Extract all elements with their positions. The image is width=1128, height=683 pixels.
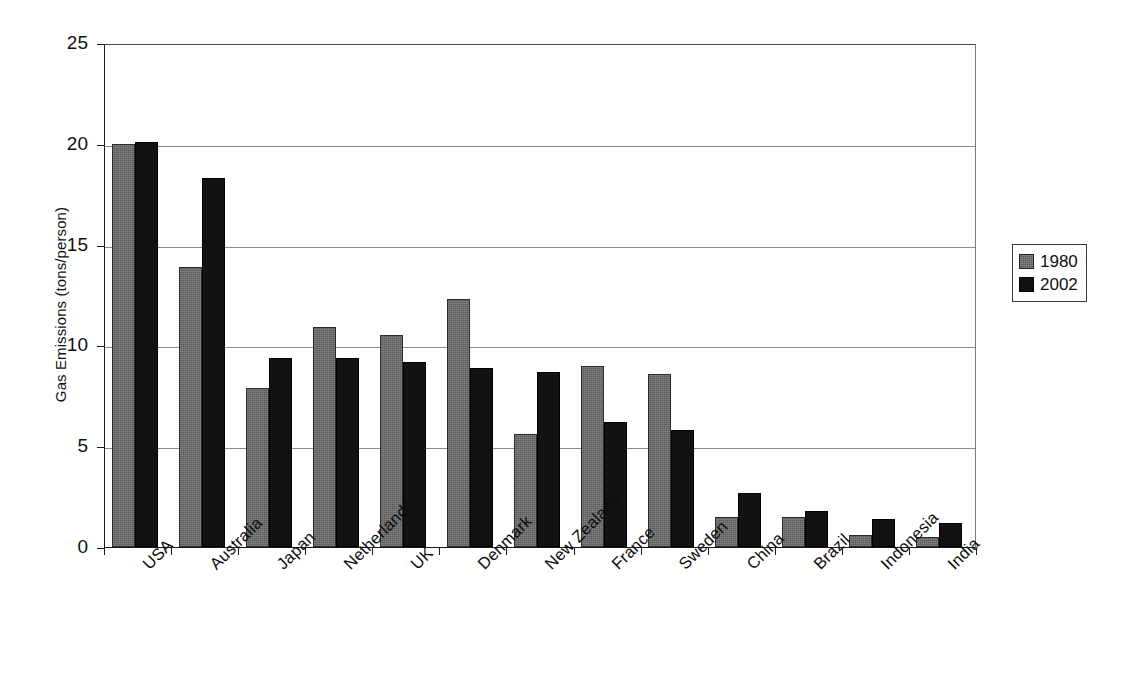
bar-group: [916, 45, 962, 547]
bar-group: [313, 45, 359, 547]
chart-legend: 1980 2002: [1012, 244, 1087, 302]
x-axis-tick: [372, 548, 373, 555]
y-axis-tick: [97, 346, 104, 347]
bar[interactable]: [269, 358, 292, 548]
bar[interactable]: [470, 368, 493, 547]
bar-group: [179, 45, 225, 547]
legend-label-1980: 1980: [1040, 253, 1078, 270]
legend-label-2002: 2002: [1040, 276, 1078, 293]
legend-item-1980[interactable]: 1980: [1019, 250, 1078, 273]
bar-group: [514, 45, 560, 547]
bar[interactable]: [336, 358, 359, 548]
x-axis-tick: [909, 548, 910, 555]
legend-swatch-icon-1980: [1019, 254, 1034, 269]
x-axis-tick: [708, 548, 709, 555]
y-axis-tick: [97, 246, 104, 247]
bar[interactable]: [648, 374, 671, 547]
bar-group: [447, 45, 493, 547]
bar-group: [648, 45, 694, 547]
bar[interactable]: [604, 422, 627, 547]
bar[interactable]: [849, 535, 872, 547]
x-axis-tick: [574, 548, 575, 555]
bar-chart-figure: Gas Emissions (tons/person) 0510152025 U…: [0, 0, 1128, 683]
bar[interactable]: [738, 493, 761, 547]
bar-group: [849, 45, 895, 547]
y-axis-tick-label: 0: [28, 536, 88, 558]
bar[interactable]: [202, 178, 225, 547]
bar-group: [380, 45, 426, 547]
y-axis-tick: [97, 548, 104, 549]
bar[interactable]: [537, 372, 560, 547]
x-axis-tick: [506, 548, 507, 555]
bar[interactable]: [313, 327, 336, 547]
bar[interactable]: [179, 267, 202, 547]
legend-item-2002[interactable]: 2002: [1019, 273, 1078, 296]
y-axis-tick-label: 25: [28, 32, 88, 54]
x-axis-tick: [641, 548, 642, 555]
bar[interactable]: [872, 519, 895, 547]
x-axis-tick: [976, 548, 977, 555]
y-axis-tick: [97, 44, 104, 45]
bar[interactable]: [447, 299, 470, 547]
bar-group: [246, 45, 292, 547]
y-axis-tick: [97, 145, 104, 146]
plot-area: [104, 44, 976, 548]
y-axis-tick: [97, 447, 104, 448]
bar-group: [581, 45, 627, 547]
y-axis-tick-label: 5: [28, 435, 88, 457]
bar-group: [782, 45, 828, 547]
bar-group: [715, 45, 761, 547]
x-axis-tick: [439, 548, 440, 555]
bar[interactable]: [671, 430, 694, 547]
bar[interactable]: [112, 144, 135, 547]
x-axis-tick: [842, 548, 843, 555]
y-axis-tick-label: 10: [28, 334, 88, 356]
x-axis-tick: [238, 548, 239, 555]
bar[interactable]: [135, 142, 158, 547]
x-axis-tick: [104, 548, 105, 555]
y-axis-tick-label: 15: [28, 234, 88, 256]
x-axis-tick: [305, 548, 306, 555]
legend-swatch-icon-2002: [1019, 277, 1034, 292]
bar[interactable]: [805, 511, 828, 547]
y-axis-tick-label: 20: [28, 133, 88, 155]
bar-group: [112, 45, 158, 547]
x-axis-tick: [775, 548, 776, 555]
x-axis-tick: [171, 548, 172, 555]
